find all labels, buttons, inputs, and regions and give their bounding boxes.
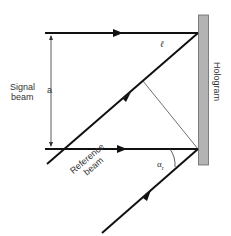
angle-label: αr [157, 159, 164, 173]
signal-beam-label: Signal beam [10, 82, 35, 102]
angle-subscript: r [162, 165, 164, 171]
hologram-label: Hologram [212, 62, 222, 101]
perpendicular-line [143, 81, 198, 149]
arrow-icon [117, 145, 127, 153]
reference-beam-upper [47, 33, 198, 164]
hologram-plate [199, 15, 209, 165]
hologram-geometry-diagram [0, 0, 231, 236]
arrow-icon [113, 29, 123, 37]
path-length-label: ℓ [160, 39, 164, 49]
signal-label-line1: Signal [10, 82, 35, 92]
arrow-icon [49, 35, 53, 40]
arrow-icon [49, 142, 53, 147]
distance-label: a [47, 85, 52, 95]
angle-arc [170, 149, 175, 167]
signal-label-line2: beam [10, 92, 35, 102]
